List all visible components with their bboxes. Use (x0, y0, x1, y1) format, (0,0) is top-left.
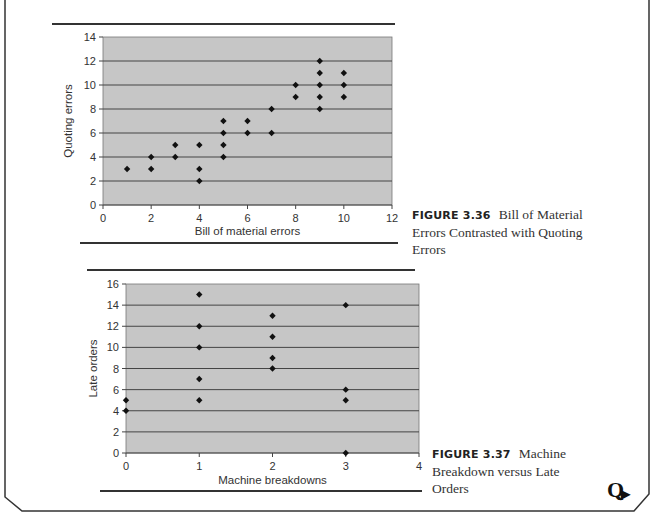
y-tick-label: 14 (107, 299, 119, 311)
q-logo-icon: Q▶ (607, 477, 633, 503)
scatter-plot-2: 024681012141601234Machine breakdownsLate… (0, 0, 659, 516)
figure-caption-3-37: FIGURE 3.37Machine Breakdown versus Late… (432, 445, 592, 497)
x-tick-label: 1 (196, 460, 202, 472)
x-tick-label: 3 (343, 460, 349, 472)
y-tick-label: 6 (113, 384, 119, 396)
y-axis-label: Late orders (87, 339, 99, 397)
figure-label: FIGURE 3.37 (432, 448, 511, 461)
y-tick-label: 16 (107, 278, 119, 290)
x-axis-label: Machine breakdowns (218, 474, 327, 486)
x-tick-label: 2 (269, 460, 275, 472)
y-tick-label: 10 (107, 341, 119, 353)
x-tick-label: 0 (123, 460, 129, 472)
y-tick-label: 2 (113, 426, 119, 438)
y-tick-label: 0 (113, 447, 119, 459)
y-tick-label: 8 (113, 363, 119, 375)
x-tick-label: 4 (416, 460, 422, 472)
y-tick-label: 4 (113, 405, 119, 417)
y-tick-label: 12 (107, 320, 119, 332)
